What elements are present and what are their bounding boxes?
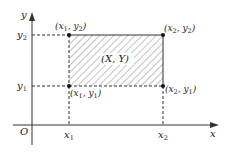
corner-label-top-left: (x1, y2) — [55, 21, 87, 33]
x-axis-label: x — [210, 128, 216, 139]
corner-label-bottom-left: (x1, y1) — [70, 88, 102, 100]
corner-dot-top-left — [67, 33, 71, 37]
tick-y2: y2 — [16, 29, 27, 42]
origin-label: O — [20, 126, 28, 137]
rectangle-region-diagram: y x O y2 y1 x1 x2 (x1, y2) (x2, y2) (x1,… — [0, 0, 229, 155]
corner-dot-top-right — [161, 33, 165, 37]
corner-label-bottom-right: (x2, y1) — [165, 84, 197, 96]
tick-x2: x2 — [158, 129, 168, 142]
region-label: (X, Y) — [101, 53, 129, 64]
y-axis-label: y — [20, 9, 27, 20]
tick-x1: x1 — [64, 129, 74, 142]
tick-y1: y1 — [16, 80, 27, 93]
corner-label-top-right: (x2, y2) — [164, 23, 196, 35]
y-axis-arrow-icon — [29, 12, 35, 21]
